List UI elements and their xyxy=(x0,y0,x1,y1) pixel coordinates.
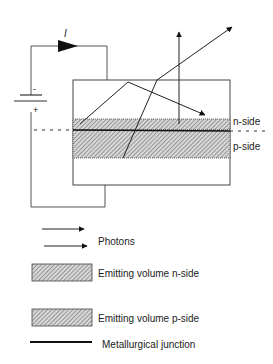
legend-n-swatch xyxy=(32,264,92,281)
legend-p-label: Emitting volume p-side xyxy=(98,313,200,324)
n-side-label: n-side xyxy=(233,116,261,127)
p-side-label: p-side xyxy=(233,141,261,152)
battery-plus: + xyxy=(33,105,38,115)
legend-photons-label: Photons xyxy=(98,236,135,247)
legend: Photons Emitting volume n-side Emitting … xyxy=(30,229,200,350)
current-arrow-icon xyxy=(58,40,78,52)
battery-minus: - xyxy=(33,84,36,94)
legend-junction-label: Metallurgical junction xyxy=(102,339,195,350)
legend-n-label: Emitting volume n-side xyxy=(98,268,200,279)
p-side-emitting-region xyxy=(73,130,230,158)
junction-line xyxy=(73,130,230,131)
n-side-emitting-region xyxy=(73,119,230,130)
current-label: I xyxy=(64,28,67,39)
battery-icon xyxy=(14,95,47,101)
legend-p-swatch xyxy=(32,309,92,326)
led-diagram: I - + n-side p-side Photons Emitting vol… xyxy=(0,0,273,364)
